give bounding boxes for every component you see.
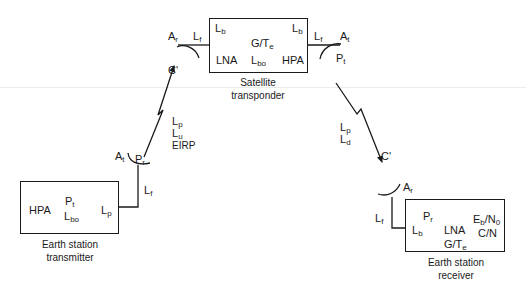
earth-receiver-caption: Earth station receiver <box>414 256 498 282</box>
sat-lb-right: Lb <box>292 22 303 34</box>
tx-feeder-loss: Lf <box>144 184 152 196</box>
receiver-feeder-line <box>392 197 405 228</box>
tx-antenna-power: Pr <box>135 153 145 165</box>
sat-tx-power: Pt <box>336 52 346 64</box>
tx-lbo: Lbo <box>64 210 79 222</box>
uplink-arrow <box>144 66 174 157</box>
tx-hpa: HPA <box>29 204 51 216</box>
rx-g-over-te: G/Te <box>444 238 467 250</box>
downlink-path-loss: Lp <box>340 121 351 133</box>
receiver-antenna-icon <box>378 184 400 195</box>
sat-lbo: Lbo <box>251 54 266 66</box>
satellite-caption: Satellite transponder <box>218 76 298 102</box>
rx-pr: Pr <box>423 210 433 222</box>
tx-lp: Lp <box>101 204 112 216</box>
sat-lna: LNA <box>216 54 237 66</box>
rx-lna: LNA <box>444 224 465 236</box>
rx-antenna-gain: Ar <box>403 181 413 193</box>
uplink-eirp: EIRP <box>172 140 195 152</box>
uplink-carrier-label: C' <box>168 64 178 76</box>
downlink-loss: Ld <box>340 133 351 145</box>
tx-pt: Pt <box>65 195 75 207</box>
uplink-loss: Lu <box>172 127 183 139</box>
sat-tx-feeder-loss: Lf <box>314 30 322 42</box>
tx-antenna-gain: At <box>115 150 125 162</box>
sat-g-over-te: G/Te <box>251 37 274 49</box>
rx-feeder-loss: Lf <box>375 212 383 224</box>
sat-hpa: HPA <box>282 54 304 66</box>
earth-transmitter-caption: Earth station transmitter <box>28 238 112 264</box>
rx-lb: Lb <box>412 224 423 236</box>
sat-lb-left: Lb <box>215 22 226 34</box>
rx-cn: C/N <box>478 227 497 239</box>
uplink-path-loss: Lp <box>172 115 183 127</box>
sat-rx-antenna-gain: Ar <box>168 30 178 42</box>
sat-tx-antenna-gain: At <box>340 30 350 42</box>
satellite-rx-antenna-icon <box>177 46 199 58</box>
rx-eb-n0: Eb/N0 <box>473 213 500 225</box>
transmitter-feeder-line <box>118 165 138 207</box>
downlink-carrier-label: C' <box>381 150 391 162</box>
sat-rx-feeder-loss: Lf <box>193 30 201 42</box>
